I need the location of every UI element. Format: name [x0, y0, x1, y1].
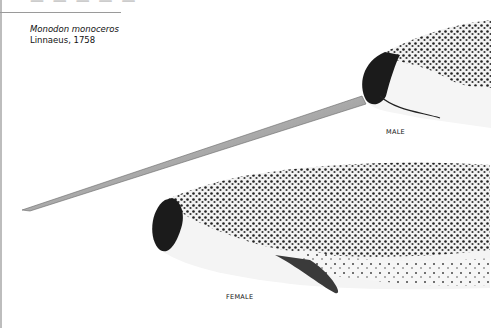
- male-narwhal: [362, 20, 491, 128]
- male-label: MALE: [386, 128, 405, 136]
- illustration-page: — — — — — Monodon monoceros Linnaeus, 17…: [0, 0, 491, 328]
- female-narwhal: [152, 162, 490, 293]
- female-label: FEMALE: [226, 293, 253, 301]
- narwhal-illustration: [0, 0, 491, 328]
